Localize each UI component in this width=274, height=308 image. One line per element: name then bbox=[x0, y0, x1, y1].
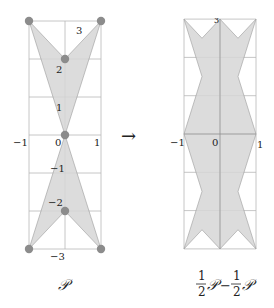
vertex-dot bbox=[61, 55, 69, 63]
y-tick-3-right: 3 bbox=[214, 16, 219, 25]
y-tick-neg2: −2 bbox=[48, 197, 63, 208]
vertex-dot bbox=[25, 17, 33, 25]
right-figure: 3 −1 0 1 1 2 𝒫 − 1 2 𝒫 bbox=[170, 16, 263, 299]
vertex-dot bbox=[61, 131, 69, 139]
x-tick-0-right: 0 bbox=[212, 137, 218, 148]
y-tick-1: 1 bbox=[56, 102, 62, 113]
caption-formula: 1 2 𝒫 − 1 2 𝒫 bbox=[196, 269, 257, 299]
y-tick-neg1: −1 bbox=[50, 163, 65, 174]
frac1-den: 2 bbox=[198, 285, 206, 299]
x-tick-0: 0 bbox=[55, 137, 61, 148]
x-tick-neg1-right: −1 bbox=[170, 137, 185, 148]
minus-sign: − bbox=[220, 278, 231, 293]
frac2-den: 2 bbox=[233, 285, 241, 299]
vertex-dot bbox=[97, 17, 105, 25]
x-tick-1: 1 bbox=[94, 137, 100, 148]
frac1-num: 1 bbox=[198, 269, 206, 283]
vertex-dot bbox=[61, 207, 69, 215]
minkowski-diagram: 3 2 1 −1 0 1 −1 −2 −3 𝒫 → 3 −1 0 1 1 2 𝒫… bbox=[0, 0, 274, 308]
y-tick-neg3: −3 bbox=[50, 251, 65, 262]
vertex-dot bbox=[25, 245, 33, 253]
maps-to-arrow: → bbox=[121, 125, 136, 146]
frac2-num: 1 bbox=[233, 269, 241, 283]
x-tick-neg1: −1 bbox=[13, 137, 28, 148]
left-figure: 3 2 1 −1 0 1 −1 −2 −3 𝒫 bbox=[13, 17, 105, 294]
y-tick-3: 3 bbox=[76, 25, 82, 36]
x-tick-1-right: 1 bbox=[257, 139, 263, 150]
y-tick-2: 2 bbox=[56, 64, 62, 75]
vertex-dot bbox=[97, 245, 105, 253]
frac2-P: 𝒫 bbox=[242, 276, 257, 294]
caption-P: 𝒫 bbox=[58, 276, 73, 294]
